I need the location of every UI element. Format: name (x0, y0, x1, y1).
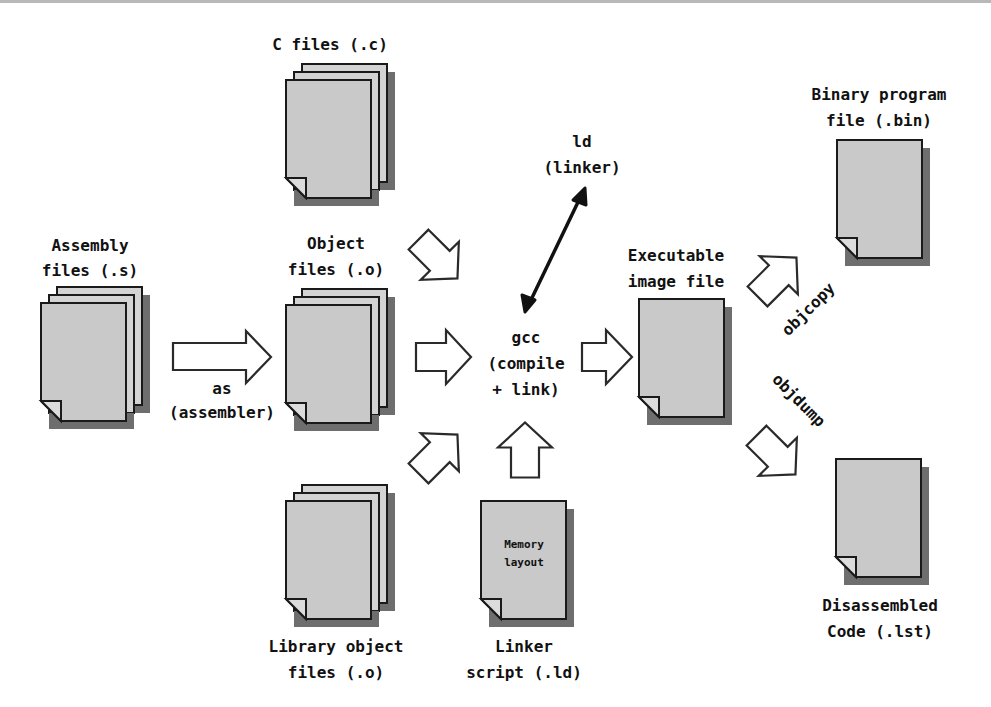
linker-script-label-1: Linker (495, 637, 553, 656)
c-files-stack-icon (286, 64, 395, 206)
gcc-label-2: (compile (487, 354, 564, 373)
executable-doc-icon (639, 299, 732, 425)
arrow-down-right-icon (737, 416, 814, 493)
c-files-label: C files (.c) (272, 35, 388, 54)
arrow-linker-script-to-gcc (498, 423, 552, 478)
ld-label-2: (linker) (543, 158, 620, 177)
double-arrow-line-icon (530, 198, 580, 302)
arrow-cfiles-to-gcc (399, 220, 476, 297)
binary-label-2: file (.bin) (826, 111, 932, 130)
library-object-files-label-1: Library object (269, 637, 404, 656)
executable-node: Executable image file (628, 246, 732, 425)
assembly-files-label-1: Assembly (51, 236, 128, 255)
gcc-node: gcc (compile + link) (487, 328, 564, 399)
gcc-ld-double-arrow (522, 188, 586, 312)
as-arrow-icon (173, 331, 271, 383)
arrow-up-right-icon (399, 415, 476, 492)
library-object-files-label-2: files (.o) (288, 663, 384, 682)
gcc-label-3: + link) (492, 380, 559, 399)
as-label-2: (assembler) (169, 403, 275, 422)
toolchain-diagram: C files (.c) Assembly files (.s) as (ass… (0, 0, 991, 707)
as-label-1: as (212, 379, 231, 398)
assembly-files-node: Assembly files (.s) (41, 236, 150, 429)
memory-layout-label-2: layout (504, 556, 544, 569)
object-files-label-2: files (.o) (288, 260, 384, 279)
assembly-files-stack-icon (41, 287, 150, 429)
disassembled-label-1: Disassembled (822, 596, 938, 615)
binary-node: Binary program file (.bin) (812, 85, 947, 266)
arrow-library-to-gcc (399, 415, 476, 492)
object-files-node: Object files (.o) (286, 234, 395, 431)
assembly-files-label-2: files (.s) (42, 261, 138, 280)
objcopy-edge: objcopy (738, 238, 838, 339)
gcc-label-1: gcc (512, 328, 541, 347)
c-files-node: C files (.c) (272, 35, 395, 206)
arrow-objects-to-gcc (416, 330, 471, 384)
linker-script-label-2: script (.ld) (466, 663, 582, 682)
disassembled-doc-icon (836, 459, 929, 585)
object-files-label-1: Object (307, 234, 365, 253)
binary-doc-icon (837, 140, 930, 266)
binary-label-1: Binary program (812, 85, 947, 104)
as-edge: as (assembler) (169, 331, 275, 422)
executable-label-1: Executable (628, 246, 724, 265)
arrow-down-right-icon (399, 220, 476, 297)
ld-node: ld (linker) (543, 132, 620, 177)
linker-script-node: Memory layout Linker script (.ld) (466, 501, 582, 682)
library-object-files-node: Library object files (.o) (269, 485, 404, 682)
arrow-gcc-to-executable (582, 330, 632, 384)
disassembled-label-2: Code (.lst) (827, 622, 933, 641)
memory-layout-label-1: Memory (504, 538, 544, 551)
ld-label-1: ld (572, 132, 591, 151)
disassembled-node: Disassembled Code (.lst) (822, 459, 938, 641)
arrow-right-icon (582, 330, 632, 384)
executable-label-2: image file (628, 272, 724, 291)
library-object-files-stack-icon (286, 485, 395, 627)
object-files-stack-icon (286, 289, 395, 431)
objdump-label: objdump (768, 370, 829, 431)
arrow-right-icon (416, 330, 471, 384)
arrow-up-icon (498, 423, 552, 478)
objdump-edge: objdump (737, 370, 829, 494)
